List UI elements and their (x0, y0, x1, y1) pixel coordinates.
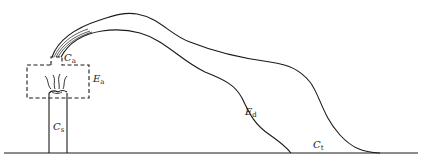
plume-lower-boundary (61, 30, 291, 153)
label-sub: s (61, 126, 65, 134)
label-c-s: Cs (53, 122, 64, 134)
label-main: C (64, 52, 72, 63)
label-c-a: Ca (64, 53, 76, 65)
smoke-wisps-icon (45, 74, 67, 89)
label-main: C (313, 139, 321, 150)
label-main: C (53, 121, 61, 132)
label-sub: d (252, 111, 256, 119)
label-sub: a (100, 78, 104, 86)
label-c-t: Ct (313, 140, 323, 152)
label-sub: a (72, 57, 76, 65)
label-e-a: Ea (93, 74, 105, 86)
label-e-d: Ed (245, 107, 257, 119)
label-sub: t (321, 144, 324, 152)
plume-diagram (0, 0, 421, 162)
